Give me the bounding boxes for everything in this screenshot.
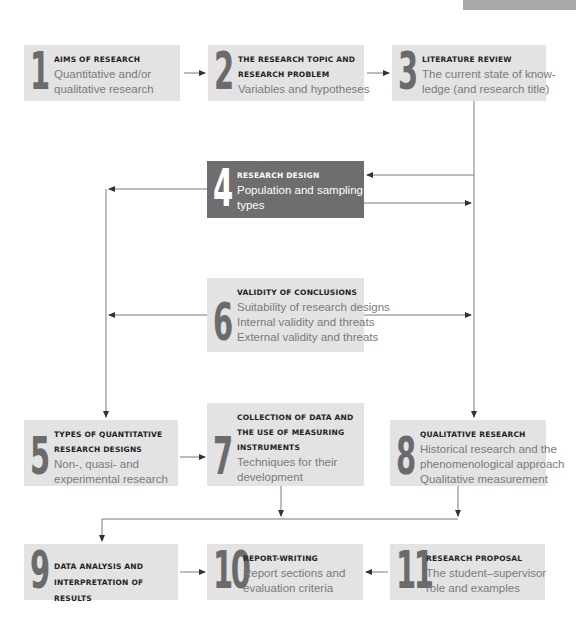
step-title: COLLECTION OF DATA AND (237, 410, 360, 425)
step-desc: The current state of know- (422, 67, 542, 82)
step-title: AIMS OF RESEARCH (54, 52, 176, 67)
corner-tab-bar (463, 0, 576, 10)
step-number: 3 (398, 45, 417, 97)
step-desc: Techniques for their (237, 455, 360, 470)
step-desc: types (237, 198, 360, 213)
step-desc: role and examples (426, 581, 541, 596)
step-desc: Report sections and (243, 566, 359, 581)
step-number: 5 (30, 430, 49, 482)
step-box-10: 10 REPORT-WRITING Report sections and ev… (207, 544, 363, 600)
step-desc: External validity and threats (237, 330, 360, 345)
step-box-2: 2 THE RESEARCH TOPIC AND RESEARCH PROBLE… (208, 45, 364, 101)
step-desc: evaluation criteria (243, 581, 359, 596)
step-box-11: 11 RESEARCH PROPOSAL The student–supervi… (390, 544, 545, 600)
step-number: 6 (213, 296, 232, 348)
step-desc: Historical research and the (420, 442, 542, 457)
step-desc: Non-, quasi- and (54, 457, 174, 472)
step-title: LITERATURE REVIEW (422, 52, 542, 67)
step-box-5: 5 TYPES OF QUANTITATIVE RESEARCH DESIGNS… (24, 420, 178, 486)
step-box-8: 8 QUALITATIVE RESEARCH Historical resear… (390, 420, 546, 486)
step-title: QUALITATIVE RESEARCH (420, 427, 542, 442)
step-title: THE RESEARCH TOPIC AND (238, 52, 360, 67)
step-desc: qualitative research (54, 82, 176, 97)
step-box-4: 4 RESEARCH DESIGN Population and samplin… (207, 161, 364, 218)
step-title: REPORT-WRITING (243, 551, 359, 566)
step-number: 9 (30, 544, 49, 596)
step-title: RESEARCH DESIGNS (54, 442, 174, 457)
step-desc: Suitability of research designs (237, 300, 360, 315)
step-title: INSTRUMENTS (237, 440, 360, 455)
step-title: THE USE OF MEASURING (237, 425, 360, 440)
step-desc: The student–supervisor (426, 566, 541, 581)
step-desc: Qualitative measurement (420, 472, 542, 487)
step-desc: development (237, 470, 360, 485)
step-number: 4 (213, 162, 232, 214)
step-number: 2 (214, 45, 233, 97)
step-desc: phenomenological approach (420, 457, 542, 472)
step-desc: Internal validity and threats (237, 315, 360, 330)
step-desc: Population and sampling (237, 183, 360, 198)
step-title: RESEARCH PROBLEM (238, 67, 360, 82)
step-box-7: 7 COLLECTION OF DATA AND THE USE OF MEAS… (207, 403, 364, 486)
step-title: INTERPRETATION OF RESULTS (54, 575, 174, 607)
step-desc: Quantitative and/or (54, 67, 176, 82)
step-title: VALIDITY OF CONCLUSIONS (237, 285, 360, 300)
step-number: 1 (30, 45, 49, 97)
step-title: RESEARCH PROPOSAL (426, 551, 541, 566)
step-box-3: 3 LITERATURE REVIEW The current state of… (392, 45, 546, 101)
step-title: RESEARCH DESIGN (237, 168, 360, 183)
step-box-1: 1 AIMS OF RESEARCH Quantitative and/or q… (24, 45, 180, 101)
step-box-9: 9 DATA ANALYSIS AND INTERPRETATION OF RE… (24, 544, 178, 600)
step-desc: experimental research (54, 472, 174, 487)
step-number: 7 (213, 430, 232, 482)
step-desc: Variables and hypotheses (238, 82, 360, 97)
step-title: TYPES OF QUANTITATIVE (54, 427, 174, 442)
step-desc: ledge (and research title) (422, 82, 542, 97)
step-number: 8 (396, 430, 415, 482)
step-box-6: 6 VALIDITY OF CONCLUSIONS Suitability of… (207, 278, 364, 352)
step-title: DATA ANALYSIS AND (54, 559, 174, 575)
